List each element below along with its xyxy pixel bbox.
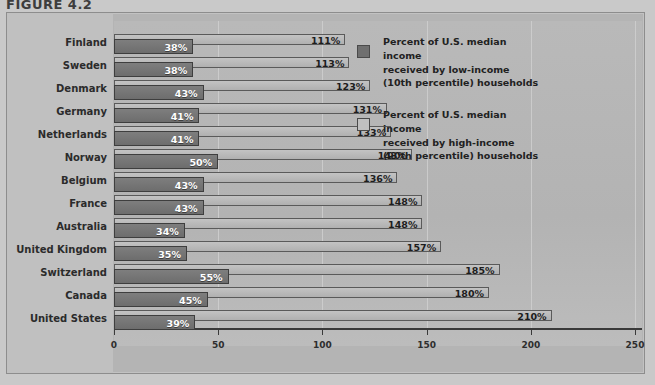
bar-value-low-income: 55% (200, 271, 223, 282)
chart-row: United Kingdom157%35% (7, 240, 644, 263)
legend-item-high-income: Percent of U.S. median income received b… (357, 108, 547, 163)
bar-value-high-income: 111% (311, 34, 340, 45)
chart-row: Netherlands133%41% (7, 125, 644, 148)
figure-title: FIGURE 4.2 (6, 0, 92, 12)
bar-low-income: 41% (114, 131, 199, 146)
x-tick-label: 200 (521, 340, 540, 350)
x-tick-label: 0 (111, 340, 117, 350)
bar-low-income: 43% (114, 177, 204, 192)
legend-item-low-income: Percent of U.S. median income received b… (357, 35, 547, 90)
category-label: Norway (65, 152, 107, 163)
chart-row: Australia148%34% (7, 217, 644, 240)
chart-row: Germany131%41% (7, 102, 644, 125)
low-income-swatch-icon (357, 45, 370, 58)
bar-low-income: 41% (114, 108, 199, 123)
bar-value-high-income: 157% (407, 241, 436, 252)
x-tick-label: 100 (313, 340, 332, 350)
legend-line-1: Percent of U.S. median income (383, 35, 547, 63)
bar-low-income: 55% (114, 269, 229, 284)
bar-value-low-income: 43% (175, 202, 198, 213)
chart-row: France148%43% (7, 194, 644, 217)
bar-value-low-income: 41% (171, 110, 194, 121)
category-label: Denmark (56, 83, 107, 94)
category-label: Netherlands (38, 129, 107, 140)
category-label: United States (30, 313, 107, 324)
bar-low-income: 43% (114, 200, 204, 215)
chart-row: Sweden113%38% (7, 56, 644, 79)
bar-value-high-income: 210% (517, 310, 546, 321)
bar-value-high-income: 148% (388, 195, 417, 206)
legend-line-3: (90th percentile) households (383, 149, 547, 163)
chart-row: Switzerland185%55% (7, 263, 644, 286)
bar-low-income: 50% (114, 154, 218, 169)
bar-value-low-income: 45% (179, 294, 202, 305)
bar-value-low-income: 35% (158, 248, 181, 259)
bar-low-income: 38% (114, 39, 193, 54)
legend-line-3: (10th percentile) households (383, 76, 547, 90)
bar-low-income: 34% (114, 223, 185, 238)
bar-value-low-income: 39% (167, 317, 190, 328)
bar-value-low-income: 38% (164, 41, 187, 52)
x-tick-label: 150 (417, 340, 436, 350)
category-label: France (69, 198, 107, 209)
chart-row: Finland111%38% (7, 33, 644, 56)
chart-row: Norway143%50% (7, 148, 644, 171)
chart-row: Canada180%45% (7, 286, 644, 309)
bar-value-low-income: 34% (156, 225, 179, 236)
bar-value-high-income: 180% (455, 287, 484, 298)
bar-low-income: 43% (114, 85, 204, 100)
bar-value-low-income: 50% (189, 156, 212, 167)
category-label: Switzerland (40, 267, 107, 278)
category-label: United Kingdom (16, 244, 107, 255)
x-tick-label: 250 (626, 340, 645, 350)
bar-value-low-income: 43% (175, 87, 198, 98)
legend-line-2: received by low-income (383, 63, 547, 77)
bar-value-low-income: 43% (175, 179, 198, 190)
bar-value-low-income: 41% (171, 133, 194, 144)
legend-label-high-income: Percent of U.S. median income received b… (383, 108, 547, 163)
category-label: Sweden (63, 60, 107, 71)
bar-value-low-income: 38% (164, 64, 187, 75)
bar-low-income: 45% (114, 292, 208, 307)
legend-label-low-income: Percent of U.S. median income received b… (383, 35, 547, 90)
chart-row: Denmark123%43% (7, 79, 644, 102)
category-label: Australia (56, 221, 107, 232)
legend-line-1: Percent of U.S. median income (383, 108, 547, 136)
x-tick-label: 50 (212, 340, 225, 350)
high-income-swatch-icon (357, 118, 370, 131)
chart-legend: Percent of U.S. median income received b… (357, 35, 547, 181)
bar-value-high-income: 148% (388, 218, 417, 229)
chart-row: Belgium136%43% (7, 171, 644, 194)
bar-low-income: 39% (114, 315, 195, 330)
figure-container: FIGURE 4.2 050100150200250 Finland111%38… (0, 0, 655, 385)
chart-frame: 050100150200250 Finland111%38%Sweden113%… (6, 12, 645, 374)
category-label: Belgium (61, 175, 107, 186)
bar-low-income: 35% (114, 246, 187, 261)
category-label: Germany (56, 106, 107, 117)
chart-row: United States210%39% (7, 309, 644, 332)
bar-low-income: 38% (114, 62, 193, 77)
category-label: Canada (65, 290, 107, 301)
bar-value-high-income: 185% (465, 264, 494, 275)
bar-value-high-income: 113% (315, 57, 344, 68)
legend-line-2: received by high-income (383, 136, 547, 150)
category-label: Finland (65, 37, 107, 48)
